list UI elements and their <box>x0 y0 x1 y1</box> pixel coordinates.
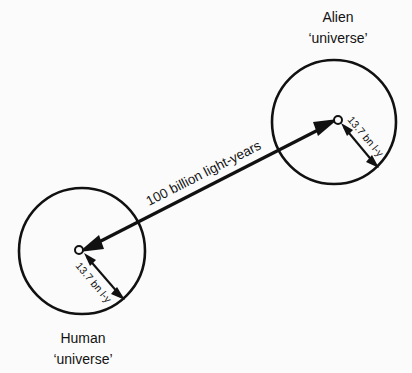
alien-universe-caption-line1: Alien <box>322 9 353 25</box>
diagram-page: Alien ‘universe’ Human ‘universe’ 13.7 b… <box>0 0 412 373</box>
universes-diagram: Alien ‘universe’ Human ‘universe’ 13.7 b… <box>0 0 412 373</box>
human-center-marker <box>75 246 83 254</box>
human-universe-caption-line1: Human <box>60 330 105 346</box>
separation-distance-label: 100 billion light-years <box>144 138 264 209</box>
alien-universe-caption-line2: ‘universe’ <box>308 30 367 46</box>
alien-center-marker <box>334 116 342 124</box>
separation-arrow-shaft <box>95 128 322 244</box>
human-universe-caption-line2: ‘universe’ <box>53 351 112 367</box>
